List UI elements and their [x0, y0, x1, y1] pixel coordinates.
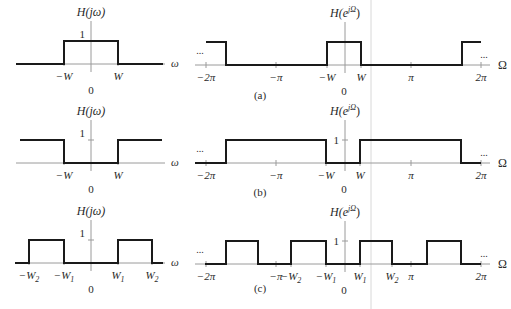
discrete-plot: −2π−π−WWπ2π10Ω......H(ejΩ): [195, 103, 507, 195]
frequency-response-figure: −WW10ωH(jω)−2π−π−WWπ2π0Ω......H(ejΩ)(a)−…: [0, 0, 511, 309]
one-label: 1: [80, 227, 86, 239]
signal-trace: [15, 240, 163, 263]
tick-label: π: [408, 71, 414, 83]
panels: −WW10ωH(jω)−2π−π−WWπ2π0Ω......H(ejΩ)(a)−…: [15, 5, 507, 296]
tick-label: −W2: [281, 270, 302, 285]
tick-label: −W1: [54, 269, 75, 284]
ellipsis-left: ...: [196, 143, 204, 154]
zero-label: 0: [341, 183, 347, 195]
zero-label: 0: [88, 283, 94, 295]
tick-label: π: [408, 270, 414, 282]
x-axis-label: ω: [171, 57, 179, 69]
tick-label: −W: [56, 70, 73, 82]
signal-trace: [205, 241, 481, 264]
ellipsis-left: ...: [196, 45, 204, 56]
panel-caption: (c): [254, 282, 267, 295]
discrete-plot: −2π−π−W2−W1W1W2π2π10Ω......H(ejΩ): [195, 204, 507, 296]
one-label: 1: [334, 235, 340, 247]
tick-label: W: [356, 71, 366, 83]
panel-caption: (b): [254, 186, 267, 199]
x-axis-label: Ω: [498, 58, 507, 72]
ellipsis-right: ...: [480, 49, 488, 60]
tick-label: −W2: [19, 269, 40, 284]
signal-trace: [16, 41, 163, 64]
tick-label: 2π: [475, 169, 487, 181]
tick-label: −2π: [197, 71, 216, 83]
tick-label: 2π: [475, 71, 487, 83]
tick-label: −2π: [197, 169, 216, 181]
one-label: 1: [334, 134, 340, 146]
zero-label: 0: [341, 85, 347, 97]
panel-caption: (a): [254, 89, 267, 102]
continuous-plot: −WW10ωH(jω): [16, 5, 179, 96]
continuous-plot: −W2−W1W1W210ωH(jω): [15, 204, 179, 295]
tick-label: −W1: [316, 270, 337, 285]
tick-label: −W: [319, 71, 336, 83]
tick-label: −π: [270, 71, 283, 83]
tick-label: 2π: [475, 270, 487, 282]
discrete-plot: −2π−π−WWπ2π0Ω......H(ejΩ): [195, 5, 507, 97]
ellipsis-right: ...: [480, 248, 488, 259]
tick-label: W: [113, 70, 123, 82]
zero-label: 0: [88, 183, 94, 195]
tick-label: −W: [318, 169, 335, 181]
one-label: 1: [80, 28, 86, 40]
signal-trace: [206, 42, 481, 65]
y-axis-label: H(jω): [76, 204, 105, 218]
zero-label: 0: [341, 284, 347, 296]
y-axis-label: H(ejΩ): [329, 5, 360, 20]
one-label: 1: [80, 127, 86, 139]
tick-label: W2: [385, 270, 398, 285]
ellipsis-right: ...: [480, 147, 488, 158]
y-axis-label: H(jω): [76, 104, 105, 118]
panel-c: −W2−W1W1W210ωH(jω)−2π−π−W2−W1W1W2π2π10Ω.…: [15, 204, 507, 296]
tick-label: −2π: [197, 270, 216, 282]
x-axis-label: Ω: [498, 257, 507, 271]
tick-label: W2: [145, 269, 158, 284]
tick-label: W: [355, 169, 365, 181]
x-axis-label: Ω: [498, 156, 507, 170]
panel-a: −WW10ωH(jω)−2π−π−WWπ2π0Ω......H(ejΩ)(a): [16, 5, 507, 102]
tick-label: W1: [353, 270, 366, 285]
x-axis-label: ω: [171, 156, 179, 168]
tick-label: −π: [270, 169, 283, 181]
continuous-plot: −WW10ωH(jω): [16, 104, 179, 195]
y-axis-label: H(ejΩ): [329, 103, 360, 118]
ellipsis-left: ...: [196, 244, 204, 255]
tick-label: W: [113, 169, 123, 181]
tick-label: π: [408, 169, 414, 181]
y-axis-label: H(ejΩ): [329, 204, 360, 219]
y-axis-label: H(jω): [76, 5, 105, 19]
zero-label: 0: [88, 84, 94, 96]
tick-label: W1: [111, 269, 124, 284]
tick-label: −W: [56, 169, 73, 181]
x-axis-label: ω: [171, 256, 179, 268]
panel-b: −WW10ωH(jω)−2π−π−WWπ2π10Ω......H(ejΩ)(b): [16, 103, 507, 199]
